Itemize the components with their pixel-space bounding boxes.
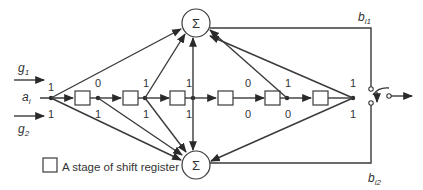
output-bi1-line: bi1	[210, 10, 373, 91]
svg-text:1: 1	[285, 77, 291, 89]
svg-text:1: 1	[48, 108, 54, 120]
bottom-summer: Σ	[182, 151, 210, 179]
legend-box-icon	[43, 158, 57, 172]
svg-text:g1: g1	[18, 61, 29, 77]
g2-input: g2	[14, 116, 44, 138]
convolutional-encoder-diagram: g1 g2 ai Σ Σ	[0, 0, 423, 190]
bi1-label: bi1	[358, 10, 371, 26]
svg-text:1: 1	[143, 77, 149, 89]
stage-5	[265, 91, 280, 105]
svg-text:Σ: Σ	[192, 16, 200, 31]
svg-text:Σ: Σ	[192, 158, 200, 173]
svg-text:1: 1	[186, 108, 192, 120]
g1-input: g1	[14, 61, 44, 80]
svg-text:1: 1	[350, 108, 356, 120]
top-summer: Σ	[182, 9, 210, 37]
svg-text:0: 0	[285, 108, 291, 120]
bi2-label: bi2	[368, 171, 381, 187]
legend-label: A stage of shift register	[62, 161, 179, 173]
g2-coefficients: 1 1 1 1 0 0 1	[48, 108, 356, 120]
svg-text:1: 1	[143, 108, 149, 120]
svg-text:1: 1	[350, 77, 356, 89]
stage-4	[218, 91, 233, 105]
svg-text:1: 1	[48, 81, 54, 93]
ai-label: ai	[22, 90, 31, 106]
svg-text:0: 0	[245, 77, 251, 89]
commutator-switch	[373, 88, 412, 102]
stage-6	[313, 91, 328, 105]
stage-3	[170, 91, 185, 105]
svg-text:1: 1	[95, 108, 101, 120]
stage-2	[123, 91, 138, 105]
svg-text:1: 1	[186, 77, 192, 89]
legend: A stage of shift register	[43, 158, 179, 173]
svg-text:0: 0	[245, 108, 251, 120]
svg-text:g2: g2	[18, 122, 30, 138]
stage-1	[75, 91, 90, 105]
svg-text:0: 0	[95, 77, 101, 89]
